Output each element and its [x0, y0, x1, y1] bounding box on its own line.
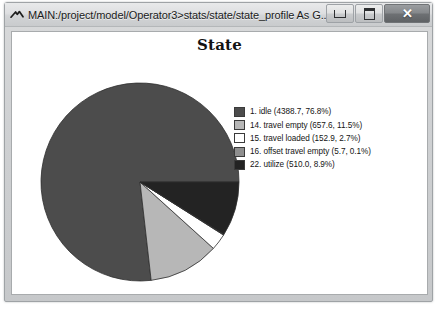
legend-item[interactable]: 16. offset travel empty (5.7, 0.1%)	[234, 146, 424, 158]
close-button[interactable]: ✕	[384, 4, 430, 23]
chart-legend: 1. idle (4388.7, 76.8%)14. travel empty …	[234, 106, 424, 172]
chart-window: MAIN:/project/model/Operator3>stats/stat…	[4, 2, 433, 302]
maximize-icon	[364, 8, 375, 20]
window-title-bar[interactable]: MAIN:/project/model/Operator3>stats/stat…	[5, 3, 432, 27]
pie-chart-svg	[40, 82, 240, 282]
window-title-text: MAIN:/project/model/Operator3>stats/stat…	[28, 9, 330, 21]
legend-item[interactable]: 22. utilize (510.0, 8.9%)	[234, 159, 424, 171]
caret-logo-icon	[10, 8, 24, 22]
window-controls: ✕	[325, 4, 430, 25]
pie-slice-group	[41, 83, 239, 281]
legend-color-swatch	[234, 147, 245, 157]
legend-item[interactable]: 1. idle (4388.7, 76.8%)	[234, 106, 424, 118]
legend-item[interactable]: 14. travel empty (657.6, 11.5%)	[234, 119, 424, 131]
desktop-background: MAIN:/project/model/Operator3>stats/stat…	[0, 0, 437, 310]
chart-client-area: State 1. idle (4388.7, 76.8%)14. travel …	[11, 31, 428, 295]
maximize-button[interactable]	[355, 4, 383, 23]
legend-item-label: 16. offset travel empty (5.7, 0.1%)	[250, 147, 371, 156]
legend-item-label: 1. idle (4388.7, 76.8%)	[250, 107, 331, 116]
legend-item-label: 14. travel empty (657.6, 11.5%)	[250, 121, 362, 130]
legend-item-label: 15. travel loaded (152.9, 2.7%)	[250, 134, 360, 143]
legend-color-swatch	[234, 133, 245, 143]
chart-title: State	[12, 36, 427, 54]
close-icon: ✕	[402, 7, 413, 20]
minimize-button[interactable]	[326, 4, 354, 23]
legend-color-swatch	[234, 120, 245, 130]
legend-color-swatch	[234, 107, 245, 117]
legend-item-label: 22. utilize (510.0, 8.9%)	[250, 160, 335, 169]
pie-chart	[40, 82, 240, 282]
legend-color-swatch	[234, 160, 245, 170]
minimize-icon	[334, 10, 346, 18]
legend-item[interactable]: 15. travel loaded (152.9, 2.7%)	[234, 133, 424, 145]
